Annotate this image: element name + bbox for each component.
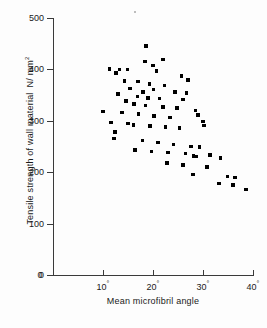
- data-point: [181, 163, 185, 167]
- data-point: [185, 91, 189, 95]
- data-point: [144, 104, 148, 108]
- data-point: [148, 124, 152, 128]
- data-point: [120, 111, 124, 115]
- data-point: [123, 79, 127, 83]
- y-axis-unit-text: N/ mm: [25, 60, 35, 88]
- y-tick-label: 500: [14, 14, 44, 23]
- data-point: [101, 110, 105, 114]
- data-point: [136, 95, 140, 99]
- plot-area: [53, 18, 253, 275]
- data-point: [116, 92, 120, 96]
- data-point: [233, 176, 237, 180]
- data-point: [113, 130, 117, 134]
- data-point: [166, 151, 170, 155]
- data-point: [132, 102, 136, 106]
- data-point: [128, 87, 132, 91]
- data-point: [126, 122, 130, 126]
- data-point: [141, 90, 145, 94]
- data-point: [219, 156, 223, 160]
- data-point: [173, 90, 177, 94]
- data-point: [191, 173, 195, 177]
- data-point: [244, 188, 248, 192]
- y-axis-unit: N/ mm2: [25, 56, 35, 87]
- data-point: [208, 153, 212, 157]
- data-point: [178, 126, 182, 130]
- data-point: [136, 80, 140, 84]
- y-axis-title-text: Tensile strength of wall material: [25, 92, 35, 224]
- scatter-plot-figure: 0100200300400500 010°20°30°40° Tensile s…: [0, 0, 267, 328]
- data-point: [152, 88, 156, 92]
- data-point: [205, 165, 209, 169]
- data-point: [155, 69, 159, 73]
- x-axis-title: Mean microfibril angle: [53, 296, 253, 306]
- data-point: [231, 183, 235, 187]
- dust-speck-icon: [134, 11, 136, 13]
- data-point: [126, 68, 130, 72]
- data-point: [144, 44, 148, 48]
- data-point: [108, 67, 112, 71]
- data-point: [118, 68, 122, 72]
- x-tick-label: 0: [25, 271, 55, 280]
- data-point: [202, 124, 206, 128]
- y-axis-title: Tensile strength of wall materialN/ mm2: [24, 26, 35, 256]
- y-axis-unit-exponent: 2: [24, 56, 30, 60]
- data-point: [109, 121, 113, 125]
- data-point: [137, 112, 141, 116]
- x-tick-mark: [253, 270, 254, 276]
- data-point: [133, 148, 137, 152]
- data-point: [150, 150, 154, 154]
- data-point: [143, 60, 147, 64]
- data-point: [175, 106, 179, 110]
- data-point: [226, 175, 230, 179]
- data-point: [152, 114, 156, 118]
- data-point: [141, 139, 145, 143]
- x-tick-label: 10°: [88, 279, 118, 292]
- data-point: [158, 97, 162, 101]
- data-point: [196, 113, 200, 117]
- data-point: [172, 143, 176, 147]
- data-point: [163, 84, 167, 88]
- data-point: [161, 105, 165, 109]
- data-point: [217, 182, 221, 186]
- data-point: [184, 152, 188, 156]
- x-tick-label: 20°: [138, 279, 168, 292]
- data-point: [114, 71, 118, 75]
- data-point: [181, 98, 185, 102]
- data-point: [156, 141, 160, 145]
- data-point: [189, 145, 193, 149]
- data-point: [186, 78, 190, 82]
- data-point: [165, 161, 169, 165]
- data-point: [198, 145, 202, 149]
- data-point: [194, 109, 198, 113]
- data-point: [161, 58, 165, 62]
- data-point: [112, 137, 116, 141]
- data-point: [180, 74, 184, 78]
- data-point: [201, 120, 205, 124]
- data-point: [168, 116, 172, 120]
- data-point: [124, 99, 128, 103]
- data-point: [164, 125, 168, 129]
- x-tick-label: 30°: [188, 279, 218, 292]
- data-point: [194, 155, 198, 159]
- data-point: [132, 123, 136, 127]
- data-point: [146, 96, 150, 100]
- data-point: [148, 82, 152, 86]
- x-tick-label: 40°: [238, 279, 267, 292]
- data-point: [151, 64, 155, 68]
